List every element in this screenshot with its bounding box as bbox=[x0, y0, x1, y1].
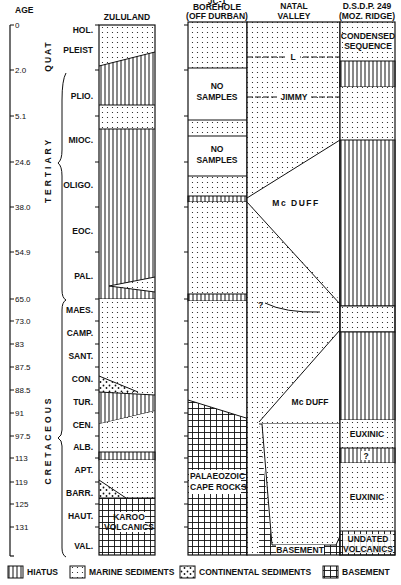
epoch-label: MAES. bbox=[66, 305, 93, 315]
epoch-label: CEN. bbox=[73, 420, 93, 430]
no-samples-2a: NO bbox=[211, 144, 224, 154]
epoch-label: APT. bbox=[75, 465, 93, 475]
epoch-label: OLIGO. bbox=[63, 180, 93, 190]
age-tick-label: 2.0 bbox=[15, 66, 27, 75]
period-brackets: QUAT TERTIARY CRETACEOUS bbox=[43, 40, 66, 557]
epoch-label: CON. bbox=[72, 374, 93, 384]
period-cretaceous: CRETACEOUS bbox=[43, 396, 53, 485]
natal-question-mark: ? bbox=[258, 300, 263, 310]
age-tick-label: 97.5 bbox=[15, 432, 31, 441]
age-axis: AGE 02.05.124.638.054.965.073.08387.588.… bbox=[10, 5, 34, 556]
karoo-label-1: KAROO bbox=[113, 512, 145, 522]
dsdp-question-mark: ? bbox=[363, 451, 368, 461]
legend-label-basement: BASEMENT bbox=[342, 567, 391, 577]
basement-label: BASEMENT bbox=[276, 545, 325, 555]
age-tick-label: 65.0 bbox=[15, 295, 31, 304]
epoch-label: EOC. bbox=[72, 226, 93, 236]
no-samples-1a: NO bbox=[211, 81, 224, 91]
angus-label: Mc DUFF bbox=[272, 198, 319, 208]
natal-title-2: VALLEY bbox=[278, 11, 311, 21]
reflector-jimmy: JIMMY bbox=[281, 92, 308, 102]
age-tick-label: 24.6 bbox=[15, 158, 31, 167]
euxinic-label-1: EUXINIC bbox=[350, 429, 384, 439]
epoch-label: SANT. bbox=[68, 351, 93, 361]
no-samples-1b: SAMPLES bbox=[196, 92, 237, 102]
palaeozoic-label-2: CAPE ROCKS bbox=[190, 482, 247, 492]
epoch-label: HAUT. bbox=[68, 511, 93, 521]
epoch-label: PLIO. bbox=[71, 91, 93, 101]
age-tick-label: 131 bbox=[15, 523, 29, 532]
epoch-label: MIOC. bbox=[68, 135, 93, 145]
stratigraphic-diagram: AGE 02.05.124.638.054.965.073.08387.588.… bbox=[0, 0, 401, 585]
karoo-label-2: VOLCANICS bbox=[104, 522, 154, 532]
epoch-label: HOL. bbox=[73, 25, 93, 35]
epoch-label: PLEIST bbox=[63, 45, 94, 55]
epoch-label: PAL. bbox=[74, 271, 93, 281]
dsdp-title-2: (MOZ. RIDGE) bbox=[339, 11, 395, 21]
mcduff-label: Mc DUFF bbox=[292, 397, 329, 407]
legend-swatch-continental bbox=[180, 566, 195, 578]
euxinic-label-2: EUXINIC bbox=[350, 492, 384, 502]
condensed-label-2: SEQUENCE bbox=[344, 41, 392, 51]
legend-label-continental: CONTINENTAL SEDIMENTS bbox=[199, 567, 311, 577]
legend: HIATUS MARINE SEDIMENTS CONTINENTAL SEDI… bbox=[8, 566, 391, 578]
legend-swatch-hiatus bbox=[8, 566, 23, 578]
period-tertiary: TERTIARY bbox=[43, 137, 53, 203]
age-tick-label: 5.1 bbox=[15, 112, 27, 121]
natal-title-1: NATAL bbox=[280, 1, 308, 11]
age-tick-label: 54.9 bbox=[15, 248, 31, 257]
undated-label-2: VOLCANICS bbox=[343, 544, 393, 554]
age-tick-label: 83 bbox=[15, 340, 24, 349]
epoch-label: CAMP. bbox=[67, 328, 93, 338]
age-tick-label: 91 bbox=[15, 409, 24, 418]
epoch-label: BARR. bbox=[66, 488, 93, 498]
column-zululand: ZULULAND KAROO VOLCANICS bbox=[99, 12, 155, 555]
period-quat: QUAT bbox=[43, 40, 53, 71]
palaeozoic-label-1: PALAEOZOIC bbox=[190, 471, 245, 481]
epoch-label: ALB. bbox=[73, 442, 93, 452]
age-tick-label: 125 bbox=[15, 500, 29, 509]
dsdp-title-1: D.S.D.P. 249 bbox=[343, 1, 392, 11]
age-tick-label: 87.5 bbox=[15, 363, 31, 372]
age-tick-label: 113 bbox=[15, 454, 28, 463]
no-samples-2b: SAMPLES bbox=[196, 155, 237, 165]
legend-label-hiatus: HIATUS bbox=[27, 567, 58, 577]
epoch-label: VAL. bbox=[74, 541, 93, 551]
age-tick-label: 0 bbox=[15, 21, 20, 30]
age-tick-label: 38.0 bbox=[15, 203, 31, 212]
age-tick-label: 88.5 bbox=[15, 386, 31, 395]
epoch-label: TUR. bbox=[73, 397, 93, 407]
legend-label-marine: MARINE SEDIMENTS bbox=[89, 567, 175, 577]
legend-swatch-basement bbox=[323, 566, 338, 578]
column-natal-valley: NATAL VALLEY Mc DUFF Mc DUFF BASEMENT L … bbox=[247, 1, 340, 555]
reflector-l: L bbox=[290, 52, 295, 62]
undated-label-1: UNDATED bbox=[348, 534, 389, 544]
age-axis-title: AGE bbox=[15, 5, 34, 15]
borehole-title-3: (OFF DURBAN) bbox=[186, 11, 248, 21]
column-title-zululand: ZULULAND bbox=[104, 12, 150, 22]
column-dsdp-249: D.S.D.P. 249 (MOZ. RIDGE) CONDENSED SEQU… bbox=[339, 1, 395, 555]
legend-swatch-marine bbox=[70, 566, 85, 578]
condensed-label-1: CONDENSED bbox=[341, 31, 395, 41]
age-tick-label: 73.0 bbox=[15, 317, 31, 326]
age-tick-label: 119 bbox=[15, 478, 28, 487]
